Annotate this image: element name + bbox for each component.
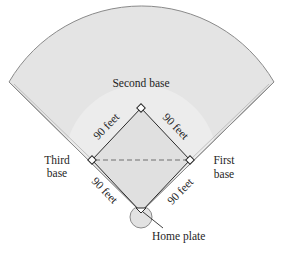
third-base-label-line2: base [47,167,67,179]
first-base-label-line1: First [213,154,235,166]
first-base-label-line2: base [214,168,234,180]
second-base-label: Second base [112,77,169,89]
third-base-label-line1: Third [44,154,70,166]
baseball-diamond-diagram: Second base Third base First base Home p… [0,0,282,253]
home-plate-label: Home plate [152,230,205,243]
